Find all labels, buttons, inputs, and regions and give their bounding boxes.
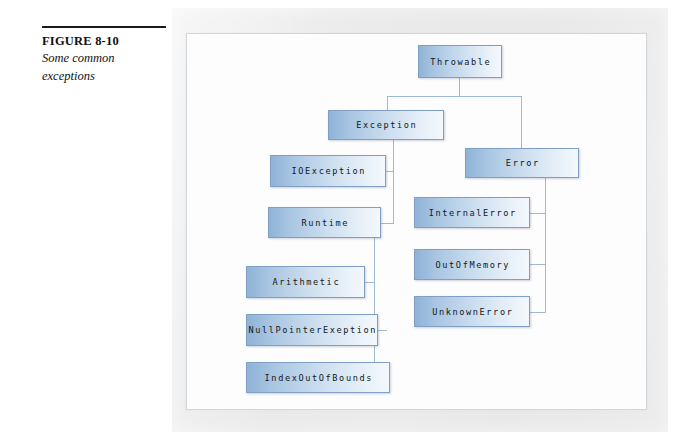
node-nullpointer: NullPointerExeption <box>246 314 378 346</box>
node-throwable: Throwable <box>418 45 502 78</box>
caption-rule <box>42 26 166 28</box>
node-internalerror: InternalError <box>414 197 530 228</box>
connector-runtime-to-nullptr <box>378 330 387 331</box>
connector-error-to-unknown <box>530 312 546 313</box>
figure-page: FIGURE 8-10 Some common exceptions Throw… <box>0 0 686 445</box>
node-label: NullPointerExeption <box>248 325 377 335</box>
connector-runtime-stem <box>374 238 375 378</box>
connector-error-to-outofmemory <box>530 264 546 265</box>
connector-throwable-to-exception <box>387 96 388 110</box>
node-label: IOException <box>292 166 367 176</box>
connector-throwable-to-error <box>521 96 522 148</box>
node-label: Arithmetic <box>272 277 340 287</box>
node-label: Throwable <box>430 57 491 67</box>
node-error: Error <box>465 148 579 178</box>
node-label: InternalError <box>429 208 517 218</box>
exception-hierarchy-diagram: ThrowableExceptionErrorIOExceptionRuntim… <box>186 33 645 408</box>
node-label: Error <box>506 158 540 168</box>
figure-caption: FIGURE 8-10 Some common exceptions <box>42 26 172 84</box>
node-label: Runtime <box>302 218 349 228</box>
connector-throwable-bus <box>387 96 521 97</box>
node-outofmemory: OutOfMemory <box>414 249 530 280</box>
node-unknownerror: UnknownError <box>414 296 530 327</box>
node-exception: Exception <box>328 110 444 140</box>
node-label: Exception <box>356 120 417 130</box>
figure-label: FIGURE 8-10 <box>42 34 172 49</box>
node-ioexception: IOException <box>270 155 386 187</box>
connector-runtime-to-arithmetic <box>365 282 375 283</box>
figure-caption-line2: exceptions <box>42 69 172 85</box>
connector-error-to-internal <box>530 213 546 214</box>
connector-exception-to-runtime <box>381 223 394 224</box>
connector-exception-stem <box>393 140 394 224</box>
figure-caption-line1: Some common <box>42 51 172 67</box>
node-runtime: Runtime <box>268 207 381 238</box>
node-label: IndexOutOfBounds <box>265 373 373 383</box>
connector-exception-to-io <box>386 171 394 172</box>
node-indexoutofbounds: IndexOutOfBounds <box>246 362 390 393</box>
node-label: UnknownError <box>432 307 513 317</box>
node-arithmetic: Arithmetic <box>246 266 365 298</box>
node-label: OutOfMemory <box>436 260 511 270</box>
connector-error-stem <box>545 178 546 312</box>
connector-throwable-stem <box>459 78 460 96</box>
